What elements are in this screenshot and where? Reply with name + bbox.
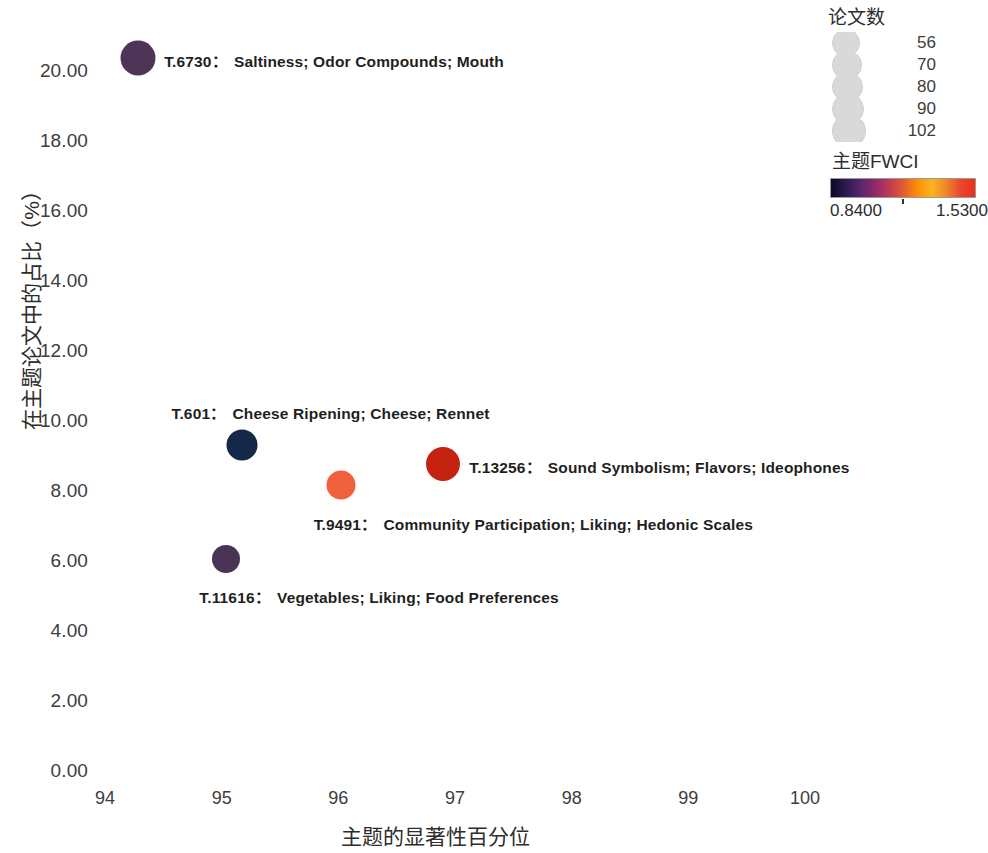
size-legend-value: 102: [880, 121, 936, 141]
x-tick-label: 95: [192, 788, 252, 809]
x-tick-label: 97: [425, 788, 485, 809]
y-tick-label: 20.00: [0, 60, 88, 82]
colorbar-max-label: 1.5300: [936, 201, 988, 221]
x-tick-label: 99: [658, 788, 718, 809]
data-point-separator: ：: [526, 459, 548, 476]
size-legend-row: 90: [820, 98, 984, 120]
size-legend-rows: 56708090102: [820, 32, 984, 142]
size-legend-swatch: [832, 76, 863, 98]
data-point-bubble[interactable]: [426, 447, 460, 481]
size-legend-row: 102: [820, 120, 984, 142]
data-point-terms: Cheese Ripening; Cheese; Rennet: [232, 405, 489, 422]
data-point-topic-id: T.6730: [164, 53, 211, 70]
x-tick-label: 100: [775, 788, 835, 809]
x-tick-label: 96: [308, 788, 368, 809]
x-axis-title: 主题的显著性百分位: [0, 820, 870, 850]
data-point-label: T.9491： Community Participation; Liking;…: [314, 512, 753, 534]
data-point-terms: Community Participation; Liking; Hedonic…: [383, 516, 753, 533]
data-point-separator: ：: [255, 589, 277, 606]
data-point-label: T.6730： Saltiness; Odor Compounds; Mouth: [164, 49, 504, 71]
data-point-separator: ：: [361, 516, 383, 533]
size-legend-swatch: [832, 98, 864, 120]
data-point-bubble[interactable]: [120, 41, 155, 76]
data-point-topic-id: T.13256: [469, 459, 525, 476]
size-legend-row: 80: [820, 76, 984, 98]
data-point-label: T.11616： Vegetables; Liking; Food Prefer…: [199, 585, 559, 607]
data-point-label: T.601： Cheese Ripening; Cheese; Rennet: [172, 401, 490, 423]
y-axis-title: 在主题论文中的占比（%）: [15, 115, 45, 495]
data-point-terms: Saltiness; Odor Compounds; Mouth: [234, 53, 504, 70]
data-point-bubble[interactable]: [212, 545, 240, 573]
size-legend-value: 70: [880, 55, 936, 75]
colorbar-min-label: 0.8400: [830, 201, 882, 221]
size-legend-swatch: [832, 32, 860, 54]
color-legend: 主题FWCI 0.8400 1.5300: [830, 146, 984, 223]
y-tick-label: 0.00: [0, 760, 88, 782]
size-legend-swatch: [832, 120, 866, 142]
colorbar-gradient: [830, 178, 976, 198]
size-legend-row: 56: [820, 32, 984, 54]
data-point-separator: ：: [212, 53, 234, 70]
data-point-bubble[interactable]: [326, 471, 355, 500]
y-tick-label: 4.00: [0, 620, 88, 642]
size-legend-value: 90: [880, 99, 936, 119]
size-legend-value: 56: [880, 33, 936, 53]
size-legend-swatch: [832, 54, 862, 76]
size-legend: 论文数 56708090102: [820, 2, 984, 142]
color-legend-title: 主题FWCI: [832, 146, 984, 173]
data-point-topic-id: T.9491: [314, 516, 361, 533]
x-tick-label: 98: [542, 788, 602, 809]
size-legend-value: 80: [880, 77, 936, 97]
size-legend-title: 论文数: [828, 2, 984, 29]
data-point-topic-id: T.601: [172, 405, 211, 422]
size-legend-row: 70: [820, 54, 984, 76]
x-tick-label: 94: [75, 788, 135, 809]
data-point-terms: Sound Symbolism; Flavors; Ideophones: [548, 459, 850, 476]
colorbar-labels: 0.8400 1.5300: [830, 201, 984, 223]
y-tick-label: 6.00: [0, 550, 88, 572]
data-point-topic-id: T.11616: [199, 589, 254, 606]
y-tick-label: 2.00: [0, 690, 88, 712]
data-point-terms: Vegetables; Liking; Food Preferences: [277, 589, 559, 606]
data-point-label: T.13256： Sound Symbolism; Flavors; Ideop…: [469, 455, 849, 477]
data-point-bubble[interactable]: [226, 430, 257, 461]
data-point-separator: ：: [210, 405, 232, 422]
